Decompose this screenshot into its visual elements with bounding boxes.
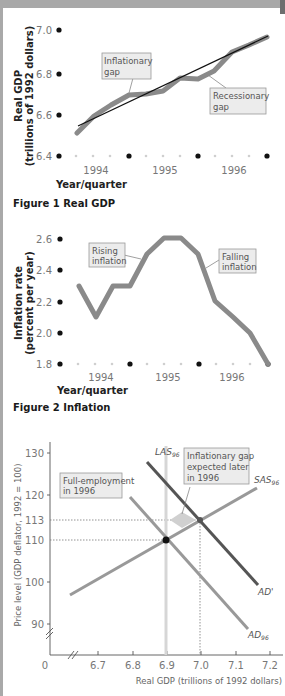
fig1-ytick-7.0: 7.0 [36,25,52,36]
svg-text:in 1996: in 1996 [187,473,219,483]
fig1-recessionary-gap-note: Recessionary gap [208,75,269,114]
fig3-ytick-120: 120 [25,490,44,501]
fig1-real-gdp-line [77,37,267,133]
fig3-ad-prime-label: AD' [257,587,274,597]
fig1-xtick-1994: 1994 [83,165,108,176]
fig3-ytick-113: 113 [25,515,44,526]
fig3-ytick-90: 90 [31,619,44,630]
fig3-y-axis-title: Price level (GDP deflator, 1992 = 100) [13,464,23,627]
fig3-x-tick-marks [98,651,270,655]
fig2-rising-inflation-note: Rising inflation [89,243,141,267]
fig2-x-axis-dots [77,361,271,366]
fig3-ad96-label: AD96 [247,630,269,641]
fig2-ytick-2.4: 2.4 [36,265,52,276]
svg-text:Rising: Rising [92,246,118,256]
fig1-x-axis-dots [75,153,270,158]
svg-text:Real GDP: Real GDP [13,70,24,122]
svg-text:Inflation rate: Inflation rate [13,266,24,340]
figures-canvas: 7.0 6.8 6.6 6.4 1994 1995 1996 Year/quar… [0,0,285,696]
figure2-inflation-chart: 2.6 2.4 2.2 2.0 1.8 1994 1995 1996 Year/… [13,234,271,413]
fig2-ytick-2.0: 2.0 [36,328,52,339]
fig3-xtick-7.0: 7.0 [193,660,209,671]
fig1-inflationary-gap-note: Inflationary gap [102,53,152,93]
fig1-y-axis-title: Real GDP (trillions of 1992 dollars) [13,26,35,167]
svg-text:inflation: inflation [92,256,127,266]
fig3-guide-lines [50,520,200,655]
fig1-ytick-6.6: 6.6 [36,110,52,121]
svg-text:Recessionary: Recessionary [213,91,269,101]
fig2-title: Figure 2 Inflation [13,402,110,413]
fig3-expected-equilibrium-point [197,517,203,523]
fig2-ytick-1.8: 1.8 [36,359,52,370]
fig1-xtick-1995: 1995 [152,165,177,176]
fig1-ytick-6.8: 6.8 [36,69,52,80]
fig3-full-employment-note: Full-employment in 1996 [60,473,135,498]
fig3-ytick-110: 110 [25,535,44,546]
fig2-y-axis-dots [57,236,62,366]
fig3-ytick-100: 100 [25,577,44,588]
fig3-xtick-6.7: 6.7 [90,660,106,671]
svg-text:gap: gap [104,67,120,77]
fig2-falling-inflation-note: Falling inflation [206,249,257,273]
fig2-xtick-1994: 1994 [88,372,113,383]
fig3-equilibrium-1996-point [163,537,170,544]
fig2-ytick-2.6: 2.6 [36,234,52,245]
figure3-as-ad-chart: 130 120 113 110 100 90 0 6.7 6.8 6.9 7.0… [13,442,283,686]
fig3-las-label: LAS96 [155,447,180,458]
fig2-ytick-2.2: 2.2 [36,297,52,308]
fig3-ytick-130: 130 [25,448,44,459]
fig2-xtick-1996: 1996 [219,372,244,383]
fig3-sas-label: SAS96 [254,475,279,486]
fig3-axis-break-marks [46,628,78,659]
svg-text:Falling: Falling [222,252,249,262]
svg-text:Inflationary gap: Inflationary gap [187,451,254,461]
fig3-xtick-6.9: 6.9 [159,660,175,671]
svg-text:Full-employment: Full-employment [63,476,135,486]
fig2-xtick-1995: 1995 [155,372,180,383]
svg-text:expected later: expected later [187,462,249,472]
svg-text:gap: gap [213,102,229,112]
figure1-real-gdp-chart: 7.0 6.8 6.6 6.4 1994 1995 1996 Year/quar… [13,25,270,209]
fig3-xtick-7.1: 7.1 [228,660,244,671]
svg-text:Inflationary: Inflationary [104,56,152,66]
fig3-inflationary-gap-note: Inflationary gap expected later in 1996 [182,448,254,514]
fig1-x-axis-title: Year/quarter [55,179,127,190]
svg-text:(trillions of 1992 dollars): (trillions of 1992 dollars) [24,26,35,167]
svg-text:inflation: inflation [222,262,257,272]
fig3-origin-label: 0 [42,660,48,671]
svg-text:in 1996: in 1996 [63,486,95,496]
svg-text:(percent per year): (percent per year) [24,251,35,354]
fig1-ytick-6.4: 6.4 [36,151,52,162]
fig3-xtick-7.2: 7.2 [262,660,278,671]
fig2-y-axis-title: Inflation rate (percent per year) [13,251,35,354]
fig2-x-axis-title: Year/quarter [56,385,128,396]
fig1-title: Figure 1 Real GDP [13,198,115,209]
fig3-x-axis-title: Real GDP (trillions of 1992 dollars) [136,676,282,686]
fig1-xtick-1996: 1996 [221,165,246,176]
fig1-y-axis-dots [56,27,61,158]
fig3-xtick-6.8: 6.8 [125,660,141,671]
